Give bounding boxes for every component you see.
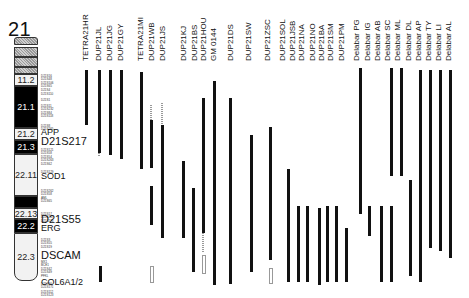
- band-21-3: 21.3: [14, 140, 38, 154]
- gene-label: DSCAM: [41, 251, 81, 260]
- duplication-bar-solid: [182, 161, 185, 238]
- duplication-bar-solid: [390, 206, 393, 282]
- subject-label: Delabar PG: [352, 6, 361, 61]
- duplication-bar-hollow: [150, 266, 154, 283]
- duplication-bar-solid: [318, 208, 321, 285]
- duplication-bar-solid: [449, 70, 452, 258]
- marker-group: D21S11D21S232D21S84D21S118: [41, 105, 54, 119]
- marker-group: MX1BCE1D21S42D21S49PFKL: [41, 261, 52, 278]
- gene-label: ERG: [41, 224, 61, 233]
- subject-label: Delabar LI: [434, 6, 443, 61]
- duplication-bar-solid: [368, 206, 371, 236]
- duplication-bar-solid: [345, 228, 348, 282]
- duplication-bar-solid: [409, 180, 412, 276]
- duplication-bar-solid: [99, 266, 102, 282]
- subject-label: GM 0144: [209, 6, 218, 61]
- duplication-bar-solid: [109, 70, 112, 155]
- duplication-bar-solid: [250, 135, 253, 272]
- subject-label: DUP21NA: [297, 6, 306, 61]
- duplication-bar-solid: [140, 72, 143, 169]
- marker-group: D21S62: [41, 163, 52, 166]
- marker-group: D21S262D21S58AMLD21S65: [41, 190, 54, 204]
- duplication-bar-solid: [335, 206, 338, 282]
- subject-label: Delabar SC: [383, 6, 392, 61]
- band-22-11: 22.11: [14, 154, 38, 196]
- subject-label: DUP21WB: [147, 6, 156, 61]
- duplication-bar-solid: [439, 70, 442, 251]
- duplication-bar-solid: [150, 120, 153, 168]
- band-22-2: 22.2: [14, 219, 38, 233]
- band-21-1: 21.1: [14, 86, 38, 128]
- subject-label: DUP21BS: [190, 6, 199, 61]
- subject-label: DUP21GY: [116, 6, 125, 61]
- duplication-bar-solid: [419, 70, 422, 282]
- duplication-bar-hollow: [269, 268, 273, 284]
- subject-label: DUP21JS: [158, 6, 167, 61]
- duplication-bar-solid: [213, 81, 216, 285]
- subject-label: Delabar AB: [373, 6, 382, 61]
- subject-label: TETRA21HR: [81, 6, 90, 61]
- subject-label: DUP21SW: [244, 6, 253, 61]
- duplication-bar-solid: [202, 98, 205, 233]
- duplication-bar-solid: [326, 206, 329, 282]
- subject-label: DUP21KJ: [179, 6, 188, 61]
- subject-label: DUP21BA: [317, 6, 326, 61]
- duplication-bar-solid: [390, 68, 393, 176]
- gene-label: D21S217: [41, 137, 87, 146]
- marker-group: D21S112D21S123: [41, 291, 54, 298]
- duplication-bar-solid: [269, 127, 272, 260]
- duplication-bar-solid: [429, 70, 432, 248]
- subject-label: DUP21DS: [226, 6, 235, 61]
- subject-label: TETRA21MI: [136, 6, 145, 61]
- duplication-bar-solid: [98, 70, 101, 153]
- subject-label: Delabar AL: [444, 6, 453, 61]
- band-22-3: 22.3: [14, 233, 38, 281]
- duplication-bar-solid: [400, 68, 403, 176]
- marker-group: D21S1: [41, 99, 50, 102]
- band-22-13: 22.13: [14, 208, 38, 219]
- duplication-bar-solid: [380, 206, 383, 282]
- band-p-mid3: [14, 67, 38, 74]
- duplication-bar-solid: [306, 206, 309, 282]
- marker-group: D21S16D21S48D21S106D21S65D21S4: [41, 75, 54, 92]
- duplication-bar-dashed: [98, 153, 100, 156]
- subject-label: Delabar DL: [404, 6, 413, 61]
- duplication-bar-solid: [161, 125, 164, 238]
- subject-label: DUP21SM: [326, 6, 335, 61]
- subject-label: Delabar IG: [363, 6, 372, 61]
- band-22.12: [14, 196, 38, 208]
- band-p-top: [14, 37, 38, 45]
- subject-label: DUP21NO: [308, 6, 317, 61]
- subject-label: DUP21PM: [337, 6, 346, 61]
- gene-label: SOD1: [41, 172, 66, 181]
- subject-label: Delabar TY: [424, 6, 433, 61]
- marker-group: D21S110: [41, 93, 53, 96]
- duplication-bar-solid: [85, 70, 88, 125]
- duplication-bar-dashed: [202, 233, 204, 252]
- duplication-bar-solid: [150, 186, 153, 225]
- subject-label: Delabar AP: [414, 6, 423, 61]
- subject-label: DUP21SOL: [278, 6, 287, 61]
- subject-label: DUP21JL: [94, 6, 103, 61]
- duplication-bar-solid: [120, 70, 123, 159]
- subject-label: DUP21ZSC: [263, 6, 272, 61]
- subject-label: Delabar ML: [393, 6, 402, 61]
- duplication-bar-solid: [192, 188, 195, 272]
- marker-group: D21S3D21S55D21S19: [41, 239, 52, 249]
- subject-label: DUP21HOU: [199, 6, 208, 61]
- band-p-mid1: [14, 47, 38, 57]
- duplication-bar-solid: [229, 98, 232, 284]
- duplication-bar-solid: [297, 206, 300, 282]
- band-11-2: 11.2: [14, 74, 38, 86]
- duplication-bar-hollow: [202, 255, 206, 274]
- marker-group: D21S121D21S58D21S54D21S263: [41, 149, 54, 163]
- band-21-2: 21.2: [14, 128, 38, 140]
- duplication-bar-dashed: [150, 105, 152, 120]
- band-p-mid2: [14, 57, 38, 67]
- duplication-bar-dashed: [161, 103, 163, 125]
- gene-label: COL6A1/2: [41, 278, 83, 287]
- subject-label: DUP21JG: [105, 6, 114, 61]
- duplication-bar-solid: [359, 68, 362, 214]
- duplication-bar-solid: [287, 169, 290, 282]
- subject-label: DUP21JSB: [288, 6, 297, 61]
